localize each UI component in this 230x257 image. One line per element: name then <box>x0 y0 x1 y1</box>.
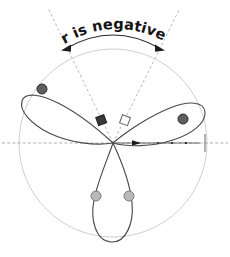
polar-rose-figure: r is negative <box>0 0 230 257</box>
point-bottom-right <box>124 191 134 201</box>
point-left-petal <box>37 84 47 94</box>
axis-tick-dot <box>185 142 187 144</box>
axis-direction-arrowhead <box>132 140 141 146</box>
annotation-textpath: r is negative <box>58 16 169 47</box>
point-near-origin-left <box>96 115 107 126</box>
point-near-origin-right <box>120 115 131 126</box>
point-right-petal <box>178 114 188 124</box>
arc-arrowhead-right <box>155 45 165 52</box>
axis-tick-dot <box>171 142 173 144</box>
point-bottom-left <box>91 191 101 201</box>
negative-r-annotation-label: r is negative <box>58 16 169 47</box>
rose-curve-svg: r is negative <box>0 0 230 257</box>
